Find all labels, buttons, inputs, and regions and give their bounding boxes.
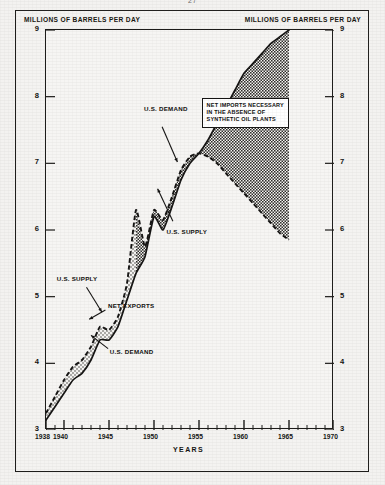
x-tick-label: 1938 bbox=[35, 433, 50, 440]
y-tick-label-right: 4 bbox=[340, 357, 354, 366]
x-tick-label: 1945 bbox=[98, 433, 113, 440]
right-axis-unit-caption: MILLIONS OF BARRELS PER DAY bbox=[245, 16, 361, 23]
callout-line: IN THE ABSENCE OF bbox=[207, 109, 284, 116]
y-tick-label-left: 4 bbox=[25, 357, 39, 366]
y-tick-label-left: 7 bbox=[25, 157, 39, 166]
page-number: 27 bbox=[0, 0, 385, 4]
x-tick-label: 1960 bbox=[233, 433, 248, 440]
annotation-us-demand-lower: U.S. DEMAND bbox=[110, 348, 154, 355]
figure-page: 27 MILLIONS OF BARRELS PER DAY MILLIONS … bbox=[0, 0, 385, 485]
y-tick-label-left: 3 bbox=[25, 424, 39, 433]
y-tick-label-left: 9 bbox=[25, 24, 39, 33]
x-tick-label: 1940 bbox=[53, 433, 68, 440]
x-tick-label: 1950 bbox=[143, 433, 158, 440]
y-tick-label-left: 8 bbox=[25, 91, 39, 100]
annotation-net-exports: NET EXPORTS bbox=[108, 302, 154, 309]
annotation-us-demand-upper: U.S. DEMAND bbox=[144, 105, 188, 112]
y-tick-label-left: 5 bbox=[25, 291, 39, 300]
annotation-us-supply-lower: U.S. SUPPLY bbox=[57, 275, 98, 282]
y-tick-label-right: 6 bbox=[340, 224, 354, 233]
left-axis-unit-caption: MILLIONS OF BARRELS PER DAY bbox=[24, 16, 140, 23]
callout-line: NET IMPORTS NECESSARY bbox=[207, 102, 284, 109]
x-axis-title: YEARS bbox=[173, 446, 204, 453]
annotation-us-supply-mid: U.S. SUPPLY bbox=[167, 228, 208, 235]
net-imports-callout: NET IMPORTS NECESSARYIN THE ABSENCE OFSY… bbox=[202, 98, 289, 128]
callout-line: SYNTHETIC OIL PLANTS bbox=[207, 116, 284, 123]
y-tick-label-right: 9 bbox=[340, 24, 354, 33]
y-tick-label-right: 7 bbox=[340, 157, 354, 166]
y-tick-label-right: 8 bbox=[340, 91, 354, 100]
y-tick-label-right: 3 bbox=[340, 424, 354, 433]
y-tick-label-left: 6 bbox=[25, 224, 39, 233]
x-tick-label: 1965 bbox=[278, 433, 293, 440]
x-tick-label: 1970 bbox=[323, 433, 338, 440]
y-tick-label-right: 5 bbox=[340, 291, 354, 300]
x-tick-label: 1955 bbox=[188, 433, 203, 440]
